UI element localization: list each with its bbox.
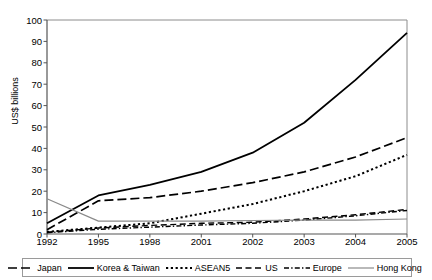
legend-item-korea-taiwan[interactable]: Korea & Taiwan (67, 263, 165, 273)
legend-item-europe[interactable]: Europe (283, 263, 347, 273)
legend-item-hong-kong[interactable]: Hong Kong (347, 263, 427, 273)
legend-label: Japan (37, 263, 66, 273)
legend-label: Hong Kong (377, 263, 426, 273)
legend-label: Korea & Taiwan (97, 263, 164, 273)
x-tick-label: 2005 (387, 236, 427, 247)
legend-item-us[interactable]: US (235, 263, 283, 273)
legend-swatch-icon (8, 264, 34, 272)
legend-swatch-icon (68, 264, 94, 272)
legend-swatch-icon (236, 264, 262, 272)
x-tick-label: 1995 (78, 236, 118, 247)
chart-legend: JapanKorea & TaiwanASEAN5USEuropeHong Ko… (22, 258, 412, 277)
x-tick-label: 1998 (130, 236, 170, 247)
series-line-korea-taiwan (47, 33, 407, 223)
legend-label: US (265, 263, 282, 273)
legend-swatch-icon (348, 264, 374, 272)
legend-swatch-icon (284, 264, 310, 272)
x-tick-label: 1992 (27, 236, 67, 247)
line-chart: US$ billions 0102030405060708090100 1992… (0, 0, 432, 280)
legend-item-asean5[interactable]: ASEAN5 (165, 263, 236, 273)
x-tick-label: 2003 (284, 236, 324, 247)
series-line-hong-kong (47, 199, 407, 221)
legend-label: Europe (313, 263, 346, 273)
x-tick-label: 2002 (233, 236, 273, 247)
x-tick-label: 2004 (336, 236, 376, 247)
x-tick-label: 2001 (181, 236, 221, 247)
legend-item-japan[interactable]: Japan (7, 263, 67, 273)
legend-swatch-icon (166, 264, 192, 272)
legend-label: ASEAN5 (195, 263, 235, 273)
